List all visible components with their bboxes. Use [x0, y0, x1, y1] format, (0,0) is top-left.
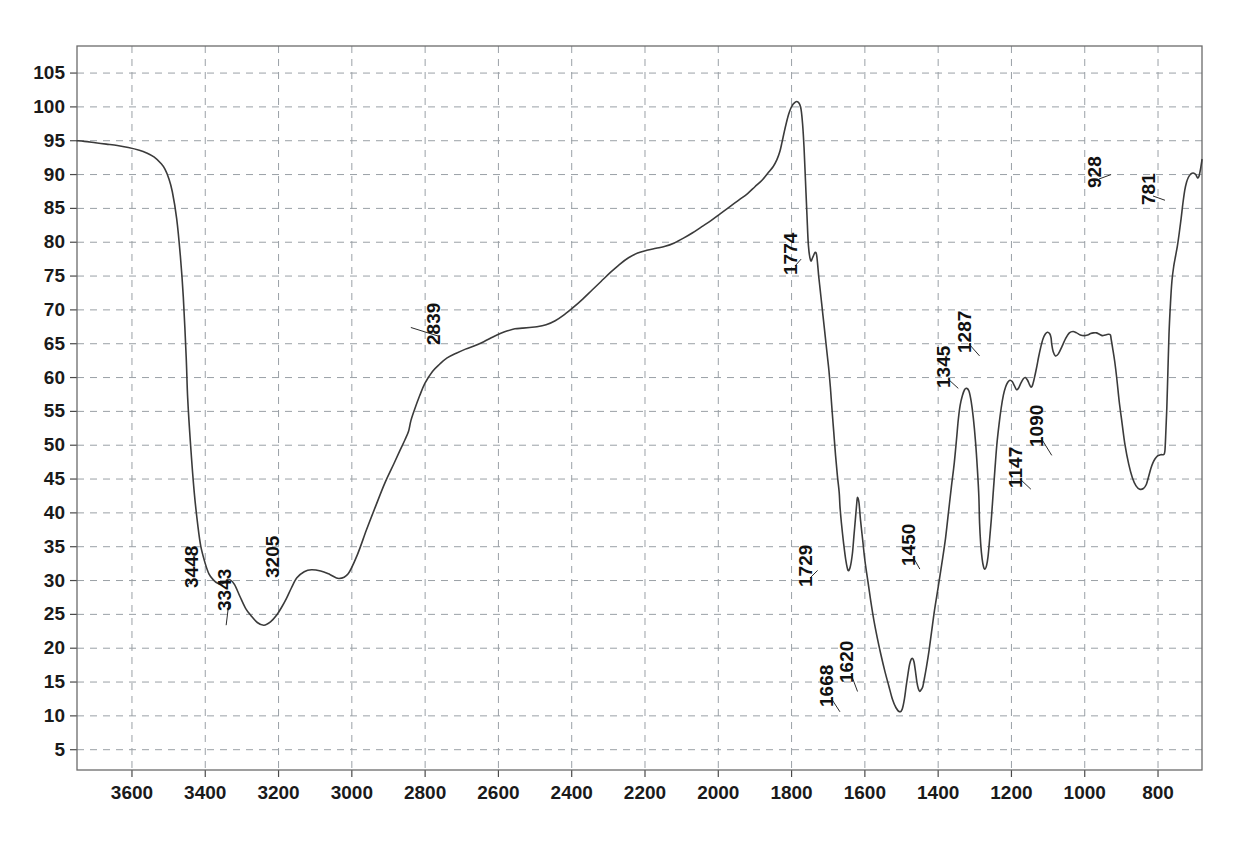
y-tick-label: 20	[44, 637, 65, 658]
figure-background	[0, 0, 1248, 845]
y-tick-label: 5	[54, 739, 65, 760]
y-tick-label: 105	[33, 62, 65, 83]
y-tick-label: 80	[44, 231, 65, 252]
peak-label-2839: 2839	[423, 303, 444, 345]
peak-label-1668: 1668	[816, 665, 837, 707]
y-tick-label: 60	[44, 367, 65, 388]
x-axis-tick-labels: 3600340032003000280026002400220020001800…	[111, 782, 1174, 803]
x-tick-label: 1200	[990, 782, 1032, 803]
x-tick-label: 2000	[697, 782, 739, 803]
y-tick-label: 65	[44, 333, 66, 354]
x-tick-label: 2400	[551, 782, 593, 803]
y-axis-ticks	[70, 73, 77, 750]
x-tick-label: 3600	[111, 782, 153, 803]
y-tick-label: 70	[44, 299, 65, 320]
x-tick-label: 1600	[844, 782, 886, 803]
ftir-spectrum-figure: 5101520253035404550556065707580859095100…	[0, 0, 1248, 845]
y-tick-label: 45	[44, 468, 66, 489]
x-tick-label: 3200	[257, 782, 299, 803]
peak-label-1345: 1345	[933, 345, 954, 388]
peak-label-781: 781	[1138, 173, 1159, 205]
peak-label-1620: 1620	[836, 641, 857, 683]
x-tick-label: 2800	[404, 782, 446, 803]
y-tick-label: 90	[44, 164, 65, 185]
y-tick-label: 100	[33, 96, 65, 117]
spectrum-plot-svg: 5101520253035404550556065707580859095100…	[0, 0, 1248, 845]
x-tick-label: 2200	[624, 782, 666, 803]
y-tick-label: 50	[44, 434, 65, 455]
y-tick-label: 35	[44, 536, 66, 557]
y-tick-label: 75	[44, 265, 66, 286]
peak-label-3343: 3343	[214, 569, 235, 611]
peak-label-928: 928	[1084, 156, 1105, 188]
x-tick-label: 2600	[477, 782, 519, 803]
peak-label-1729: 1729	[795, 545, 816, 587]
peak-label-1774: 1774	[780, 232, 801, 275]
y-tick-label: 95	[44, 130, 66, 151]
x-tick-label: 1800	[770, 782, 812, 803]
y-tick-label: 10	[44, 705, 65, 726]
peak-label-3205: 3205	[262, 535, 283, 578]
peak-label-3448: 3448	[181, 546, 202, 588]
peak-label-1090: 1090	[1026, 405, 1047, 447]
y-tick-label: 25	[44, 603, 66, 624]
x-tick-label: 3400	[184, 782, 226, 803]
y-tick-label: 55	[44, 400, 66, 421]
x-tick-label: 1400	[917, 782, 959, 803]
x-tick-label: 1000	[1064, 782, 1106, 803]
x-tick-label: 3000	[331, 782, 373, 803]
y-tick-label: 15	[44, 671, 66, 692]
peak-label-1287: 1287	[954, 311, 975, 353]
peak-label-1450: 1450	[898, 524, 919, 566]
peak-label-1147: 1147	[1005, 447, 1026, 488]
y-tick-label: 30	[44, 570, 65, 591]
x-tick-label: 800	[1142, 782, 1174, 803]
y-tick-label: 85	[44, 197, 66, 218]
y-tick-label: 40	[44, 502, 65, 523]
